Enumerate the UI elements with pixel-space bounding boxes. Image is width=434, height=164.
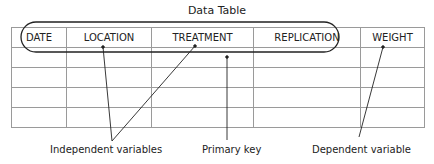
label-independent-variables: Independent variables [50, 144, 162, 155]
label-primary-key: Primary key [202, 144, 261, 155]
arrow-treatment [112, 46, 195, 141]
arrow-location [103, 47, 112, 141]
arrow-weight [359, 47, 383, 137]
annotation-overlay [0, 0, 434, 164]
primary-key-outline [21, 22, 339, 52]
label-dependent-variable: Dependent variable [312, 144, 411, 155]
